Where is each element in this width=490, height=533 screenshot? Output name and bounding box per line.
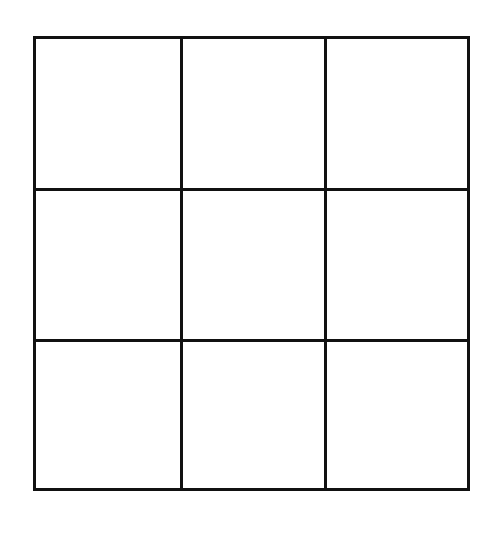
- cell-r1-c1[interactable]: [183, 191, 324, 339]
- cell-r2-c2[interactable]: [327, 342, 467, 488]
- cell-r0-c2[interactable]: [327, 39, 467, 188]
- cell-r2-c0[interactable]: [36, 342, 180, 488]
- cell-r1-c0[interactable]: [36, 191, 180, 339]
- cell-r1-c2[interactable]: [327, 191, 467, 339]
- tic-tac-toe-board: [33, 36, 470, 491]
- cell-r0-c0[interactable]: [36, 39, 180, 188]
- cell-r0-c1[interactable]: [183, 39, 324, 188]
- cell-r2-c1[interactable]: [183, 342, 324, 488]
